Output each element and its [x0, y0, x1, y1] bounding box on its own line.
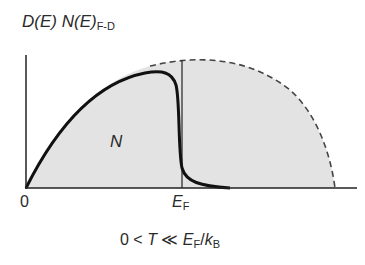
y-label-dos: D(E) [22, 12, 57, 31]
dos-fill [26, 60, 335, 188]
cond-much-less: ≪ [157, 231, 183, 248]
y-label-occupation: N(E) [62, 12, 97, 31]
x-tick-fermi: EF [172, 193, 189, 212]
cond-T: T [147, 231, 157, 248]
y-axis-label: D(E) N(E)F-D [22, 12, 115, 32]
region-label-n: N [110, 132, 122, 152]
fermi-symbol: E [172, 193, 183, 210]
cond-k: k [205, 231, 213, 248]
cond-prefix: 0 < [120, 231, 147, 248]
fermi-sub: F [183, 200, 190, 212]
plot [0, 0, 365, 265]
temperature-condition: 0 < T ≪ EF/kB [120, 230, 220, 250]
cond-E: E [183, 231, 194, 248]
y-label-sub: F-D [97, 20, 115, 32]
x-tick-origin: 0 [20, 193, 29, 211]
cond-k-sub: B [213, 238, 220, 250]
